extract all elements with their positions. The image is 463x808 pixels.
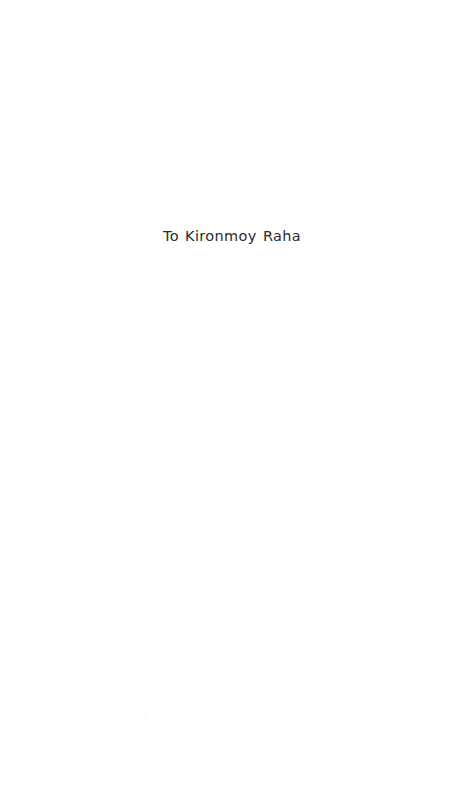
- dedication-text: To Kironmoy Raha: [163, 226, 403, 246]
- scanned-book-page: To Kironmoy Raha: [0, 0, 463, 808]
- scan-artifact-speck: [144, 716, 146, 721]
